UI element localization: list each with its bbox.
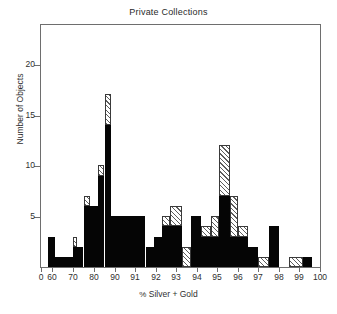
histogram-bar	[84, 196, 91, 267]
histogram-bar	[289, 257, 303, 267]
histogram-bar	[269, 226, 280, 267]
x-tick-label: 60	[41, 272, 63, 282]
bar-segment-black	[211, 237, 219, 268]
histogram-bar	[48, 237, 55, 268]
bar-segment-black	[154, 237, 162, 268]
histogram-bar	[154, 237, 162, 268]
histogram-bar	[146, 247, 154, 267]
x-tick-label: 97	[247, 272, 269, 282]
bar-segment-black	[191, 216, 201, 267]
bar-segment-hatched	[230, 196, 238, 237]
x-tick-label: 98	[268, 272, 290, 282]
x-axis-label-text: Silver + Gold	[146, 289, 197, 299]
histogram-bar	[211, 216, 219, 267]
bar-segment-black	[111, 216, 145, 267]
bar-segment-hatched	[258, 257, 269, 267]
bar-segment-hatched	[201, 226, 211, 236]
bar-segment-hatched	[289, 257, 303, 267]
bar-segment-hatched	[182, 247, 190, 267]
y-tick-label: 5	[11, 211, 35, 221]
bar-segment-black	[48, 237, 55, 268]
histogram-bar	[55, 257, 73, 267]
bar-segment-black	[170, 226, 182, 267]
y-tick-label: 10	[11, 160, 35, 170]
bar-segment-hatched	[170, 206, 182, 226]
bar-segment-black	[146, 247, 154, 267]
bar-segment-black	[84, 206, 91, 267]
x-tick-label: 93	[165, 272, 187, 282]
x-axis-label: % Silver + Gold	[0, 289, 337, 299]
bar-segment-hatched	[98, 165, 105, 175]
bar-segment-hatched	[219, 145, 230, 196]
bar-segment-black	[90, 206, 97, 267]
plot-area	[40, 24, 321, 268]
histogram-bar	[77, 247, 84, 267]
histogram-bar	[191, 216, 201, 267]
x-tick-label: 90	[104, 272, 126, 282]
histogram-bar	[238, 226, 248, 267]
histogram-bar	[182, 247, 190, 267]
histogram-bar	[170, 206, 182, 267]
histogram-bar	[111, 216, 145, 267]
bar-segment-hatched	[84, 196, 91, 206]
x-tick-label: 80	[83, 272, 105, 282]
histogram-bar	[90, 206, 97, 267]
x-tick-label: 94	[186, 272, 208, 282]
bar-segment-black	[105, 125, 112, 267]
bar-segment-black	[77, 247, 84, 267]
bar-segment-hatched	[162, 216, 170, 226]
bar-segment-black	[248, 247, 258, 267]
bar-segment-black	[303, 257, 311, 267]
x-tick-label: 91	[124, 272, 146, 282]
histogram-bar	[248, 247, 258, 267]
bar-segment-black	[269, 226, 280, 267]
bar-segment-hatched	[105, 94, 112, 125]
x-tick-label: 99	[288, 272, 310, 282]
bar-segment-hatched	[211, 216, 219, 236]
bar-segment-black	[230, 237, 238, 268]
bar-segment-hatched	[73, 237, 77, 247]
bar-segment-black	[219, 196, 230, 267]
y-tick-label: 20	[11, 59, 35, 69]
x-tick-label: 92	[145, 272, 167, 282]
x-tick-label: 95	[206, 272, 228, 282]
histogram-bar	[162, 216, 170, 267]
chart-figure: Private Collections Number of Objects 51…	[0, 0, 337, 314]
bar-segment-hatched	[238, 226, 248, 236]
bar-segment-black	[98, 176, 105, 268]
histogram-bars	[41, 25, 320, 267]
bar-segment-black	[238, 237, 248, 268]
histogram-bar	[230, 196, 238, 267]
x-tick-label: 100	[309, 272, 331, 282]
histogram-bar	[258, 257, 269, 267]
bar-segment-black	[201, 237, 211, 268]
histogram-bar	[303, 257, 311, 267]
x-tick-label: 96	[227, 272, 249, 282]
y-tick-label: 15	[11, 110, 35, 120]
x-tick-label: 70	[62, 272, 84, 282]
histogram-bar	[201, 226, 211, 267]
histogram-bar	[98, 165, 105, 267]
chart-title: Private Collections	[0, 7, 337, 17]
bar-segment-black	[55, 257, 73, 267]
histogram-bar	[105, 94, 112, 267]
bar-segment-black	[162, 226, 170, 267]
histogram-bar	[219, 145, 230, 267]
